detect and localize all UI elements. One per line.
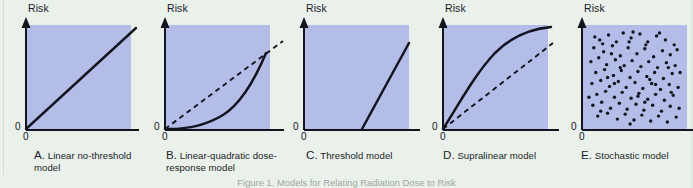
scatter-point <box>609 106 612 109</box>
scatter-point <box>610 52 613 55</box>
panel-captions: A. Linear no-threshold model B. Linear-q… <box>0 149 693 179</box>
scatter-point <box>621 91 624 94</box>
scatter-point <box>614 58 617 61</box>
scatter-point <box>612 74 615 77</box>
scatter-point <box>653 71 656 74</box>
scatter-point <box>603 68 606 71</box>
origin-y-label-a: 0 <box>15 121 21 132</box>
caption-text-b: Linear-quadratic dose-response model <box>166 150 277 173</box>
radiation-dose-response-figure: Risk 0 0 Risk 0 0 <box>0 0 693 188</box>
scatter-point <box>587 96 590 99</box>
scatter-point <box>646 98 649 101</box>
scatter-point <box>644 43 647 46</box>
scatter-point <box>597 56 600 59</box>
scatter-point <box>599 79 602 82</box>
plot-background-c <box>305 25 409 130</box>
origin-x-label-b: 0 <box>162 131 168 142</box>
scatter-point <box>640 113 643 116</box>
chart-panel-a: Risk 0 0 <box>0 0 139 150</box>
scatter-point <box>634 103 637 106</box>
scatter-point <box>607 33 610 36</box>
caption-panel-a: A. Linear no-threshold model <box>34 149 154 173</box>
scatter-point <box>625 107 628 110</box>
scatter-point <box>678 71 681 74</box>
origin-x-label-a: 0 <box>23 131 29 142</box>
chart-panel-b: Risk 0 0 <box>139 0 278 150</box>
scatter-point <box>611 44 614 47</box>
scatter-point <box>664 38 667 41</box>
scatter-point <box>622 31 625 34</box>
scatter-point <box>592 46 595 49</box>
scatter-point <box>647 60 650 63</box>
plot-area-b <box>139 12 284 150</box>
scatter-point <box>590 82 593 85</box>
scatter-point <box>629 36 632 39</box>
scatter-point <box>657 114 660 117</box>
scatter-point <box>670 91 673 94</box>
origin-x-label-c: 0 <box>301 131 307 142</box>
chart-panel-e: Risk 0 0 <box>556 0 693 150</box>
scatter-point <box>626 46 629 49</box>
scatter-point <box>635 52 638 55</box>
scatter-point <box>665 61 668 64</box>
scatter-point <box>669 53 672 56</box>
scatter-point <box>658 31 661 34</box>
caption-text-a: Linear no-threshold model <box>34 150 131 173</box>
scatter-point <box>648 78 651 81</box>
origin-x-label-d: 0 <box>440 131 446 142</box>
y-axis-arrow-e <box>578 17 587 28</box>
scatter-point <box>667 66 670 69</box>
scatter-point <box>673 43 676 46</box>
scatter-point <box>618 102 621 105</box>
scatter-point <box>659 88 662 91</box>
scatter-point <box>672 94 675 97</box>
scatter-point <box>663 99 666 102</box>
scatter-point <box>668 83 671 86</box>
scatter-point <box>643 101 646 104</box>
caption-panel-c: C. Threshold model <box>306 149 436 162</box>
scatter-point <box>628 76 631 79</box>
scatter-point <box>631 30 634 33</box>
scatter-point <box>654 83 657 86</box>
scatter-point <box>619 54 622 57</box>
scatter-point <box>606 76 609 79</box>
scatter-point <box>591 104 594 107</box>
origin-y-label-c: 0 <box>293 121 299 132</box>
scatter-point <box>595 93 598 96</box>
scatter-point <box>627 40 630 43</box>
scatter-point <box>641 87 644 90</box>
scatter-point <box>675 48 678 51</box>
caption-panel-b: B. Linear-quadratic dose-response model <box>166 149 292 173</box>
plot-area-c <box>278 12 420 150</box>
scatter-point <box>677 106 680 109</box>
y-axis-arrow-b <box>161 17 170 28</box>
scatter-point <box>646 40 649 43</box>
caption-panel-e: E. Stochastic model <box>581 149 693 162</box>
scatter-point <box>619 66 622 69</box>
chart-panel-c: Risk 0 0 <box>278 0 417 150</box>
scatter-point <box>669 105 672 108</box>
scatter-point <box>613 82 616 85</box>
plot-area-d <box>417 12 559 150</box>
caption-letter-d: D. <box>443 148 455 161</box>
origin-y-label-d: 0 <box>432 121 438 132</box>
scatter-point <box>615 40 618 43</box>
scatter-point <box>676 86 679 89</box>
y-axis-arrow-d <box>439 17 448 28</box>
origin-y-label-b: 0 <box>154 121 160 132</box>
scatter-point <box>606 111 609 114</box>
figure-bottom-caption: Figure 1. Models for Relating Radiation … <box>0 177 693 188</box>
scatter-point <box>638 32 641 35</box>
origin-y-label-e: 0 <box>571 121 577 132</box>
scatter-point <box>674 115 677 118</box>
scatter-point <box>598 38 601 41</box>
scatter-point <box>601 42 604 45</box>
caption-panel-d: D. Supralinear model <box>443 149 577 162</box>
caption-letter-a: A. <box>34 148 45 161</box>
caption-text-d: Supralinear model <box>457 150 536 161</box>
scatter-point <box>666 120 669 123</box>
scatter-point <box>624 86 627 89</box>
scatter-point <box>660 109 663 112</box>
scatter-point <box>662 77 665 80</box>
scatter-point <box>637 92 640 95</box>
